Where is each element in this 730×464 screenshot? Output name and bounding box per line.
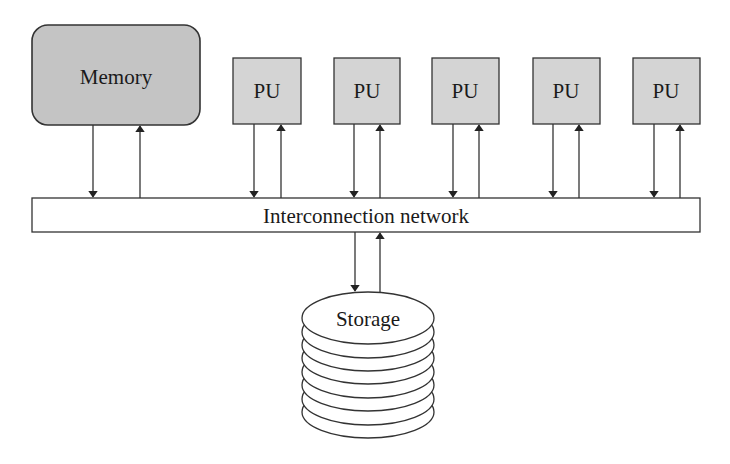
pu-node-5: PU [633, 58, 700, 124]
pu-label: PU [452, 79, 479, 103]
storage-label: Storage [336, 307, 400, 331]
shared-memory-architecture-diagram: Memory PU PU PU PU PU Interconnection ne… [0, 0, 730, 464]
interconnection-network: Interconnection network [32, 198, 700, 232]
pu-node-3: PU [432, 58, 499, 124]
memory-node: Memory [32, 25, 200, 125]
pu-node-2: PU [334, 58, 400, 124]
memory-label: Memory [80, 65, 153, 89]
network-label: Interconnection network [263, 204, 469, 228]
pu-label: PU [354, 79, 381, 103]
pu-node-1: PU [233, 58, 301, 124]
pu-label: PU [653, 79, 680, 103]
pu-label: PU [254, 79, 281, 103]
pu-node-4: PU [533, 58, 600, 124]
pu-label: PU [553, 79, 580, 103]
